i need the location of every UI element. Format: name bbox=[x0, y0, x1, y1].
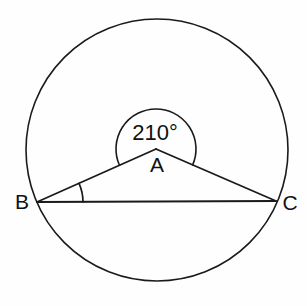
segment-BC bbox=[37, 201, 276, 202]
vertex-label-B: B bbox=[15, 190, 29, 213]
angle-value-label: 210° bbox=[132, 120, 178, 145]
diagram-canvas: 210° A B C bbox=[0, 0, 307, 306]
vertex-label-A: A bbox=[150, 153, 164, 176]
vertex-label-C: C bbox=[282, 191, 297, 214]
circle-geometry-figure: 210° A B C bbox=[0, 0, 307, 306]
